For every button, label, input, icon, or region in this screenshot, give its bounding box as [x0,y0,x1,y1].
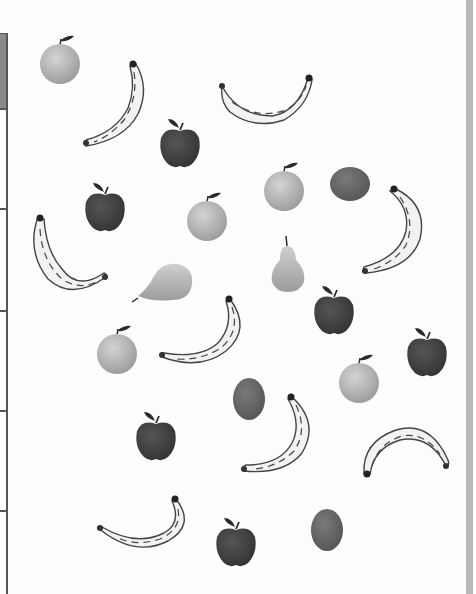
banana-icon [30,215,110,301]
banana-icon [360,420,452,480]
banana-icon [96,495,192,555]
orange-icon [38,33,82,85]
kiwi-icon [309,507,345,553]
worksheet-page [0,0,476,594]
banana-icon [240,393,316,479]
table-row-line [0,410,7,412]
apple-icon [214,515,258,569]
orange-icon [262,160,306,212]
orange-icon [95,323,139,375]
apple-icon [134,409,178,463]
page-edge-bar [466,0,473,594]
orange-icon [337,352,381,404]
table-row-line [0,208,7,210]
banana-icon [360,185,428,277]
table-row-line [0,108,7,110]
pear-icon [268,234,308,294]
table-row-line [0,310,7,312]
banana-icon [80,58,150,150]
apple-icon [312,283,356,337]
apple-icon [158,116,202,170]
banana-icon [160,295,248,371]
banana-icon [218,72,316,128]
apple-icon [405,325,449,379]
orange-icon [185,190,229,242]
table-row-line [0,510,7,512]
